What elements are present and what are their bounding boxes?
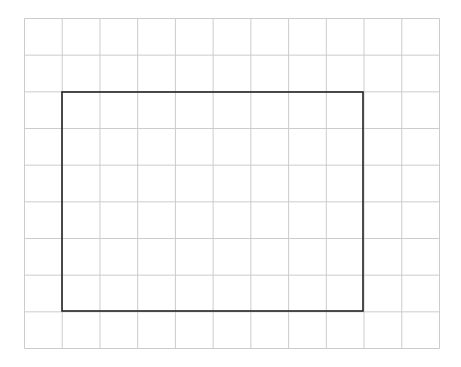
grid-diagram (0, 0, 461, 367)
grid-lines (25, 19, 440, 349)
